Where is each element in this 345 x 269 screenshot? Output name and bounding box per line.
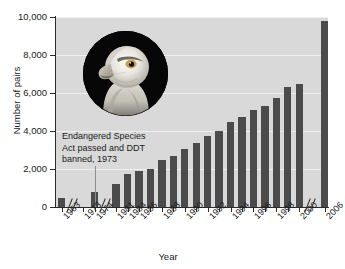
annotation-line-2: Act passed and DDT <box>62 143 187 155</box>
y-tick-label-10000: 10,000 <box>18 11 47 22</box>
x-tick-1993 <box>219 208 220 212</box>
y-tick-0 <box>50 207 55 208</box>
x-tick-1989 <box>173 208 174 212</box>
bar-1992 <box>204 136 211 207</box>
bar-2000 <box>296 84 303 207</box>
bar-1995 <box>238 117 245 207</box>
y-tick-label-4000: 4,000 <box>23 125 47 136</box>
y-tick-label-8000: 8,000 <box>23 49 47 60</box>
x-tick-1995 <box>242 208 243 212</box>
annotation-line-3: banned, 1973 <box>62 154 187 166</box>
bar-1991 <box>193 143 200 207</box>
x-tick-1987 <box>150 208 151 212</box>
bald-eagle-photo <box>83 31 168 116</box>
y-tick-label-2000: 2,000 <box>23 163 47 174</box>
y-tick-4000 <box>50 131 55 132</box>
bar-2006 <box>321 21 328 207</box>
x-tick-1997 <box>265 208 266 212</box>
y-axis-title: Number of pairs <box>11 46 22 156</box>
annotation-text: Endangered SpeciesAct passed and DDTbann… <box>62 131 187 166</box>
y-axis-line <box>55 16 56 208</box>
y-tick-label-6000: 6,000 <box>23 87 47 98</box>
bar-1999 <box>284 87 291 207</box>
x-tick-1999 <box>288 208 289 212</box>
x-tick-1991 <box>196 208 197 212</box>
bar-1993 <box>215 131 222 207</box>
bar-1981 <box>112 184 119 207</box>
bar-1963 <box>58 198 65 207</box>
bar-1996 <box>250 110 257 207</box>
x-axis-title: Year <box>0 251 336 262</box>
annotation-line-1: Endangered Species <box>62 131 187 143</box>
bar-1997 <box>261 106 268 207</box>
bar-1994 <box>227 122 234 207</box>
bar-1998 <box>273 98 280 207</box>
y-tick-10000 <box>50 17 55 18</box>
y-tick-8000 <box>50 55 55 56</box>
y-tick-2000 <box>50 169 55 170</box>
bar-1988 <box>158 160 165 207</box>
y-tick-6000 <box>50 93 55 94</box>
y-tick-label-0: 0 <box>42 201 47 212</box>
